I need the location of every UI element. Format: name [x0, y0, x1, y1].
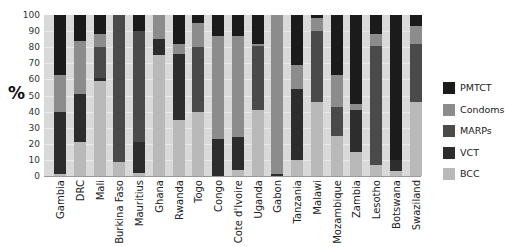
category-label: Gambia [55, 180, 67, 219]
x-tick-label: Togo [191, 180, 205, 246]
bar-segment-vct [212, 139, 224, 176]
bar-segment-marps [113, 15, 125, 162]
bar-segment-pmtct [370, 15, 382, 34]
bar-gambia [54, 15, 66, 176]
x-tick-label: Lesotho [369, 180, 383, 246]
bar-segment-pmtct [133, 15, 145, 31]
bar-segment-condoms [350, 104, 362, 110]
bar-segment-bcc [291, 160, 303, 176]
bar-segment-vct [133, 142, 145, 173]
bar-mauritius [133, 15, 145, 176]
x-tick-label: Swaziland [409, 180, 423, 246]
bar-segment-pmtct [390, 15, 402, 160]
x-axis-line [44, 176, 421, 177]
category-label: Botswana [391, 180, 403, 229]
category-label: Togo [193, 180, 205, 203]
category-label: Lesotho [371, 180, 383, 219]
bar-segment-bcc [252, 110, 264, 176]
y-tick-label: 40 [14, 107, 40, 117]
category-label: Malawi [312, 180, 324, 215]
bar-segment-vct [390, 160, 402, 171]
bar-segment-bcc [173, 120, 185, 176]
bar-segment-pmtct [252, 15, 264, 44]
bar-congo [212, 15, 224, 176]
bar-segment-vct [291, 89, 303, 160]
legend-item-bcc: BCC [443, 168, 503, 180]
bar-segment-pmtct [212, 15, 224, 36]
x-tick-label: Zambia [349, 180, 363, 246]
bar-gabon [271, 15, 283, 176]
bar-segment-marps [410, 44, 422, 102]
category-label: Rwanda [174, 180, 186, 220]
y-tick-label: 80 [14, 42, 40, 52]
bar-segment-pmtct [54, 15, 66, 75]
bar-segment-vct [74, 94, 86, 142]
x-tick-label: Mali [93, 180, 107, 246]
category-label: DRC [75, 180, 87, 201]
x-tick-label: Gabon [270, 180, 284, 246]
legend-item-vct: VCT [443, 147, 503, 159]
bar-segment-marps [331, 107, 343, 136]
bar-togo [192, 15, 204, 176]
bar-segment-vct [54, 112, 66, 175]
bar-segment-vct [153, 39, 165, 55]
bar-segment-bcc [350, 152, 362, 176]
bar-segment-condoms [94, 34, 106, 47]
bar-segment-vct [94, 78, 106, 81]
bar-segment-marps [311, 31, 323, 102]
bar-segment-condoms [54, 75, 66, 112]
bar-segment-bcc [74, 142, 86, 176]
bar-segment-pmtct [232, 15, 244, 36]
bar-segment-condoms [370, 34, 382, 45]
x-tick-label: Mozambique [330, 180, 344, 246]
bar-segment-condoms [192, 23, 204, 47]
legend-item-marps: MARPs [443, 125, 503, 137]
x-tick-label: Rwanda [172, 180, 186, 246]
x-tick-label: Malawi [310, 180, 324, 246]
category-label: Ghana [154, 180, 166, 213]
bar-drc [74, 15, 86, 176]
bar-segment-condoms [232, 36, 244, 137]
bar-segment-condoms [173, 44, 185, 54]
y-tick-label: 10 [14, 155, 40, 165]
bar-segment-pmtct [94, 15, 106, 34]
bar-mali [94, 15, 106, 176]
y-tick-label: 0 [14, 171, 40, 181]
category-label: Gabon [272, 180, 284, 213]
bar-segment-condoms [311, 18, 323, 31]
bar-ghana [153, 15, 165, 176]
category-label: Mali [95, 180, 107, 200]
bar-zambia [350, 15, 362, 176]
legend-swatch [443, 125, 455, 137]
bar-segment-pmtct [350, 15, 362, 104]
x-tick-label: Botswana [389, 180, 403, 246]
category-label: Uganda [253, 180, 265, 219]
bar-segment-pmtct [331, 15, 343, 75]
x-tick-label: Mauritius [132, 180, 146, 246]
bar-segment-condoms [410, 26, 422, 44]
y-tick-label: 70 [14, 58, 40, 68]
bar-tanzania [291, 15, 303, 176]
legend-item-condoms: Condoms [443, 104, 503, 116]
x-tick-label: Burkina Faso [112, 180, 126, 246]
bar-segment-bcc [331, 136, 343, 176]
category-label: Mauritius [134, 180, 146, 226]
bar-segment-pmtct [74, 15, 86, 41]
bar-segment-pmtct [410, 15, 422, 26]
bar-segment-vct [173, 54, 185, 120]
category-label: Cote d'Ivoire [233, 180, 245, 243]
bar-segment-bcc [370, 165, 382, 176]
x-tick-label: Uganda [251, 180, 265, 246]
bar-segment-bcc [192, 112, 204, 176]
bar-cote-d-ivoire [232, 15, 244, 176]
y-tick-label: 90 [14, 26, 40, 36]
bar-segment-vct [350, 110, 362, 152]
y-axis-label: % [8, 83, 25, 103]
legend-label: PMTCT [460, 82, 492, 94]
x-tick-label: Tanzania [290, 180, 304, 246]
legend-swatch [443, 168, 455, 180]
category-label: Congo [213, 180, 225, 212]
y-tick-label: 100 [14, 10, 40, 20]
bar-segment-pmtct [173, 15, 185, 44]
x-tick-label: Cote d'Ivoire [231, 180, 245, 246]
